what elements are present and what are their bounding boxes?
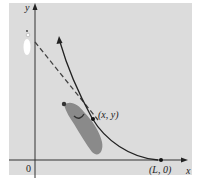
point-L0 [159,158,163,162]
point-L0-label: (L, 0) [149,164,172,176]
pursuit-curve-diagram: y x 0 (x, y) (L, 0) [0,0,203,187]
point-xy [91,117,95,121]
y-axis-label: y [24,2,30,13]
origin-label: 0 [26,163,31,174]
point-xy-label: (x, y) [98,109,119,121]
x-axis-label: x [185,165,191,176]
